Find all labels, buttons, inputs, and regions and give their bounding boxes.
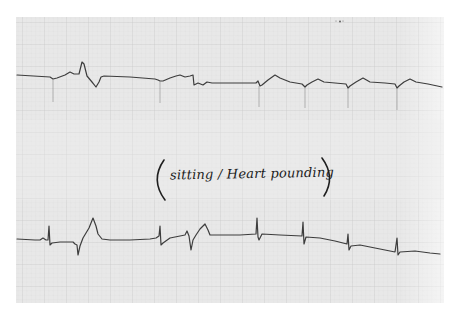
annotation-text: sitting / Heart pounding (170, 165, 334, 183)
annotation-note: sitting / Heart pounding (150, 148, 350, 206)
